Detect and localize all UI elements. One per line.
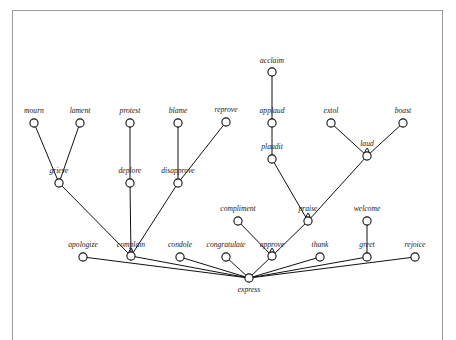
node-label-reprove: reprove — [214, 105, 238, 114]
graph-edge — [87, 258, 245, 278]
graph-node-deplore[interactable] — [126, 179, 134, 187]
graph-node-blame[interactable] — [174, 119, 182, 127]
graph-edge — [253, 258, 411, 278]
node-label-blame: blame — [169, 106, 188, 115]
graph-node-protest[interactable] — [126, 119, 134, 127]
node-label-condole: condole — [168, 240, 193, 249]
node-label-disapprove: disapprove — [161, 166, 195, 175]
node-circle-icon[interactable] — [174, 179, 182, 187]
node-label-deplore: deplore — [119, 166, 143, 175]
node-label-acclaim: acclaim — [260, 56, 285, 65]
node-circle-icon[interactable] — [316, 253, 324, 261]
node-circle-icon[interactable] — [174, 119, 182, 127]
graph-node-welcome[interactable] — [363, 217, 371, 225]
node-label-extol: extol — [324, 106, 339, 115]
node-label-thank: thank — [312, 240, 330, 249]
node-circle-icon[interactable] — [268, 252, 276, 260]
node-label-boast: boast — [395, 106, 412, 115]
node-circle-icon[interactable] — [363, 217, 371, 225]
graph-node-lament[interactable] — [76, 119, 84, 127]
node-label-laud: laud — [360, 139, 374, 148]
node-label-praise: praise — [298, 204, 319, 213]
node-tick-icon — [306, 214, 310, 217]
node-circle-icon[interactable] — [399, 119, 407, 127]
graph-node-greet[interactable] — [363, 253, 371, 261]
node-circle-icon[interactable] — [222, 118, 230, 126]
node-circle-icon[interactable] — [234, 217, 242, 225]
graph-node-applaud[interactable] — [268, 119, 276, 127]
graph-edge — [370, 126, 400, 153]
node-circle-icon[interactable] — [268, 119, 276, 127]
node-label-protest: protest — [119, 106, 142, 115]
node-label-congratulate: congratulate — [207, 240, 246, 249]
graph-node-disapprove[interactable] — [174, 179, 182, 187]
node-label-express: express — [238, 285, 261, 294]
graph-node-laud[interactable] — [363, 149, 371, 161]
graph-node-rejoice[interactable] — [411, 253, 419, 261]
node-circle-icon[interactable] — [55, 179, 63, 187]
node-label-mourn: mourn — [24, 106, 44, 115]
graph-nodes — [30, 68, 419, 282]
graph-node-acclaim[interactable] — [268, 68, 276, 76]
node-label-compliment: compliment — [220, 204, 256, 213]
graph-node-condole[interactable] — [176, 253, 184, 261]
node-label-lament: lament — [70, 106, 92, 115]
node-circle-icon[interactable] — [327, 119, 335, 127]
graph-node-extol[interactable] — [327, 119, 335, 127]
graph-node-approve[interactable] — [268, 249, 276, 261]
graph-node-boast[interactable] — [399, 119, 407, 127]
node-label-approve: approve — [260, 240, 285, 249]
graph-node-congratulate[interactable] — [222, 253, 230, 261]
node-label-plaudit: plaudit — [260, 142, 283, 151]
node-circle-icon[interactable] — [304, 217, 312, 225]
node-circle-icon[interactable] — [411, 253, 419, 261]
graph-node-express[interactable] — [245, 274, 253, 282]
node-circle-icon[interactable] — [268, 68, 276, 76]
graph-node-thank[interactable] — [316, 253, 324, 261]
node-label-complain: complain — [117, 240, 145, 249]
node-circle-icon[interactable] — [79, 253, 87, 261]
node-circle-icon[interactable] — [127, 252, 135, 260]
graph-node-reprove[interactable] — [222, 118, 230, 126]
graph-node-compliment[interactable] — [234, 217, 242, 225]
node-circle-icon[interactable] — [30, 119, 38, 127]
node-circle-icon[interactable] — [268, 155, 276, 163]
node-circle-icon[interactable] — [126, 179, 134, 187]
node-label-rejoice: rejoice — [405, 240, 426, 249]
node-circle-icon[interactable] — [363, 152, 371, 160]
node-label-greet: greet — [359, 240, 375, 249]
node-label-welcome: welcome — [354, 204, 381, 213]
node-circle-icon[interactable] — [176, 253, 184, 261]
node-label-grieve: grieve — [50, 166, 70, 175]
node-circle-icon[interactable] — [245, 274, 253, 282]
node-tick-icon — [365, 149, 369, 152]
graph-node-mourn[interactable] — [30, 119, 38, 127]
node-circle-icon[interactable] — [363, 253, 371, 261]
node-label-applaud: applaud — [260, 106, 285, 115]
node-label-apologize: apologize — [68, 240, 98, 249]
graph-node-grieve[interactable] — [55, 179, 63, 187]
graph-node-apologize[interactable] — [79, 253, 87, 261]
node-circle-icon[interactable] — [76, 119, 84, 127]
node-circle-icon[interactable] — [222, 253, 230, 261]
node-circle-icon[interactable] — [126, 119, 134, 127]
graph-node-plaudit[interactable] — [268, 155, 276, 163]
